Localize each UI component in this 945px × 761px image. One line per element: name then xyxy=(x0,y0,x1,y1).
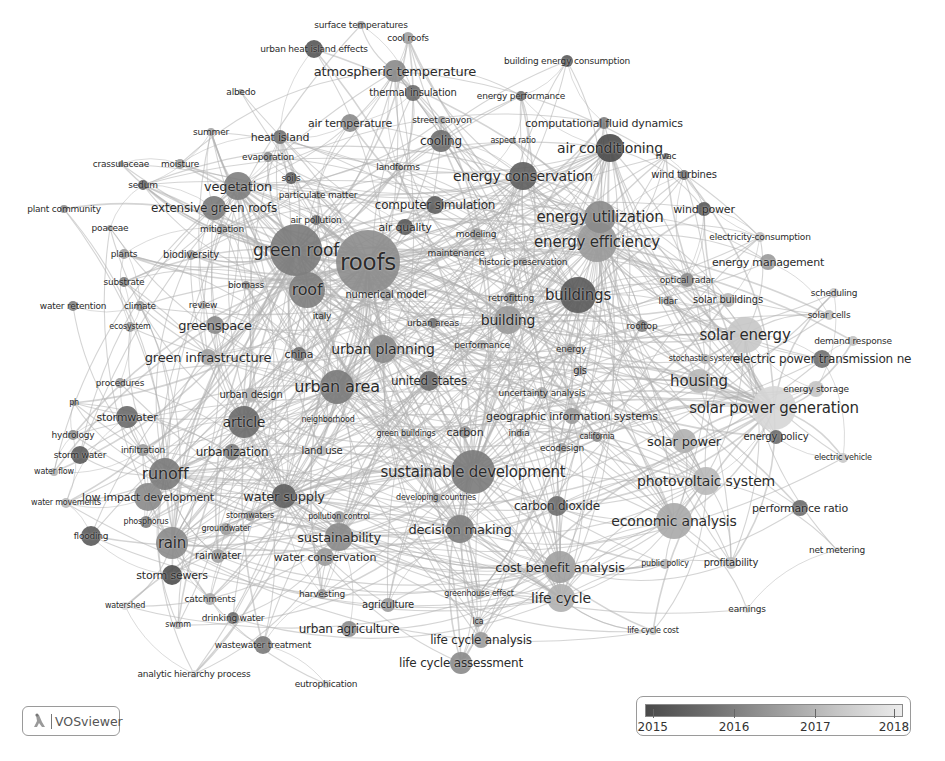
node-label[interactable]: ph xyxy=(69,399,79,407)
node-label[interactable]: procedures xyxy=(96,379,144,388)
node-label[interactable]: soils xyxy=(282,174,301,183)
node-label[interactable]: numerical model xyxy=(345,290,426,300)
node-label[interactable]: developing countries xyxy=(396,494,476,502)
node-label[interactable]: electric power transmission ne xyxy=(733,353,911,365)
node-label[interactable]: solar power generation xyxy=(689,401,859,416)
node-label[interactable]: urban agriculture xyxy=(299,623,400,635)
node-label[interactable]: thermal insulation xyxy=(369,88,456,98)
node-label[interactable]: storm sewers xyxy=(136,570,207,581)
node-label[interactable]: harvesting xyxy=(299,590,345,599)
node-label[interactable]: lca xyxy=(473,618,484,626)
node-label[interactable]: roof xyxy=(292,282,323,298)
node-label[interactable]: electric vehicle xyxy=(814,454,871,462)
node-label[interactable]: watershed xyxy=(105,602,145,610)
node-label[interactable]: solar power xyxy=(647,435,721,448)
node-label[interactable]: earnings xyxy=(728,605,765,614)
node-label[interactable]: article xyxy=(223,415,266,429)
node-label[interactable]: wind turbines xyxy=(651,170,716,180)
node-label[interactable]: low impact development xyxy=(82,492,214,503)
node-label[interactable]: sustainable development xyxy=(380,465,565,480)
node-label[interactable]: wastewater treatment xyxy=(215,641,311,650)
node-label[interactable]: solar energy xyxy=(699,328,790,343)
node-label[interactable]: net metering xyxy=(809,546,865,555)
node-label[interactable]: mitigation xyxy=(200,225,244,234)
node-label[interactable]: maintenance xyxy=(428,249,485,258)
node-label[interactable]: energy performance xyxy=(477,92,565,101)
node-label[interactable]: vegetation xyxy=(204,180,272,193)
node-label[interactable]: electricity-consumption xyxy=(709,233,810,242)
node-label[interactable]: energy utilization xyxy=(536,210,663,225)
node-label[interactable]: energy efficiency xyxy=(534,235,660,250)
node-label[interactable]: water conservation xyxy=(274,552,376,563)
node-label[interactable]: hydrology xyxy=(52,431,95,440)
node-label[interactable]: computational fluid dynamics xyxy=(525,118,682,129)
node-label[interactable]: rooftop xyxy=(627,322,658,331)
node-label[interactable]: atmospheric temperature xyxy=(314,65,476,78)
node-label[interactable]: plants xyxy=(111,250,137,259)
node-label[interactable]: climate xyxy=(124,302,156,311)
node-label[interactable]: drinking water xyxy=(202,614,264,623)
node-label[interactable]: urbanization xyxy=(196,446,269,458)
node-label[interactable]: ecodesign xyxy=(540,444,584,453)
node-label[interactable]: urban areas xyxy=(407,319,459,328)
node-label[interactable]: crassulaceae xyxy=(93,160,149,169)
node-label[interactable]: stormwater xyxy=(96,412,157,423)
node-label[interactable]: urban planning xyxy=(331,342,434,356)
node-label[interactable]: agriculture xyxy=(362,600,414,610)
node-label[interactable]: air conditioning xyxy=(557,141,663,155)
node-label[interactable]: optical radar xyxy=(660,276,715,285)
node-label[interactable]: gis xyxy=(573,366,587,376)
node-label[interactable]: public policy xyxy=(641,560,689,568)
node-label[interactable]: air quality xyxy=(378,222,431,233)
node-label[interactable]: china xyxy=(285,349,314,360)
node-label[interactable]: green infrastructure xyxy=(145,351,271,364)
node-label[interactable]: economic analysis xyxy=(611,514,736,528)
node-label[interactable]: california xyxy=(580,433,615,441)
node-label[interactable]: uncertainty analysis xyxy=(499,389,586,398)
node-label[interactable]: urban design xyxy=(219,390,282,400)
node-label[interactable]: summer xyxy=(193,128,229,137)
node-label[interactable]: performance ratio xyxy=(752,503,848,514)
node-label[interactable]: modeling xyxy=(456,230,496,239)
node-label[interactable]: water supply xyxy=(243,490,325,503)
node-label[interactable]: neighborhood xyxy=(301,416,354,424)
node-label[interactable]: swmm xyxy=(165,621,191,629)
node-label[interactable]: extensive green roofs xyxy=(151,202,277,214)
node-label[interactable]: profitability xyxy=(704,558,759,568)
node-label[interactable]: demand response xyxy=(814,337,892,346)
node-label[interactable]: greenhouse effect xyxy=(444,590,513,598)
node-label[interactable]: life cycle analysis xyxy=(430,634,532,646)
node-label[interactable]: carbon xyxy=(447,427,484,438)
node-label[interactable]: analytic hierarchy process xyxy=(137,670,250,679)
node-label[interactable]: runoff xyxy=(142,466,189,482)
node-label[interactable]: lidar xyxy=(659,297,678,306)
node-label[interactable]: green buildings xyxy=(377,430,436,438)
node-label[interactable]: energy policy xyxy=(744,432,809,442)
node-label[interactable]: photovoltaic system xyxy=(637,474,775,488)
node-label[interactable]: aspect ratio xyxy=(490,137,535,145)
node-label[interactable]: eutrophication xyxy=(295,680,358,689)
node-label[interactable]: energy conservation xyxy=(453,169,593,183)
node-label[interactable]: roofs xyxy=(340,251,396,274)
node-label[interactable]: moisture xyxy=(161,160,199,169)
node-label[interactable]: solar buildings xyxy=(693,295,763,305)
node-label[interactable]: cost benefit analysis xyxy=(495,561,624,574)
node-label[interactable]: hvac xyxy=(656,152,677,161)
node-label[interactable]: particulate matter xyxy=(279,191,358,200)
node-label[interactable]: heat island xyxy=(251,132,310,143)
node-label[interactable]: life cycle cost xyxy=(627,627,679,635)
node-label[interactable]: solar cells xyxy=(808,311,851,320)
node-label[interactable]: ecosystem xyxy=(109,323,150,331)
node-label[interactable]: cool roofs xyxy=(387,34,429,43)
node-label[interactable]: air pollution xyxy=(290,216,341,225)
node-label[interactable]: india xyxy=(509,429,530,438)
node-label[interactable]: poaceae xyxy=(92,224,129,233)
node-label[interactable]: substrate xyxy=(104,278,145,287)
node-label[interactable]: carbon dioxide xyxy=(514,500,600,512)
node-label[interactable]: groundwater xyxy=(202,525,251,533)
node-label[interactable]: sedum xyxy=(128,181,157,190)
node-label[interactable]: stormwaters xyxy=(226,512,274,520)
node-label[interactable]: biodiversity xyxy=(163,250,219,260)
node-label[interactable]: air temperature xyxy=(308,118,392,129)
node-label[interactable]: rain xyxy=(158,536,186,551)
